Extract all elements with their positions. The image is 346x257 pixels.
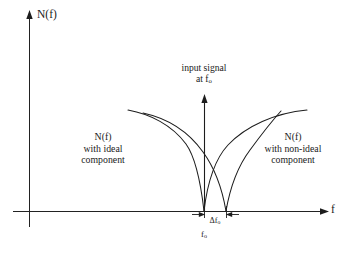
x-axis-arrow-icon: [320, 208, 329, 214]
delta-f-label-base: Δf: [210, 216, 218, 225]
f-zero-label: fo: [194, 229, 214, 240]
ideal-component-label-line2: with ideal: [52, 143, 154, 155]
input-signal-label-base: at f: [196, 73, 209, 84]
ideal-component-label: N(f) with ideal component: [52, 131, 154, 166]
y-axis-arrow-icon: [26, 10, 32, 19]
y-axis-label: N(f): [37, 8, 57, 22]
non-ideal-component-label-line3: component: [243, 154, 343, 166]
figure-canvas: [0, 0, 346, 257]
input-signal-label: input signal at fo: [163, 62, 245, 86]
curve-non-ideal-left-branch: [143, 113, 226, 211]
input-signal-arrow-icon: [201, 94, 207, 103]
f-zero-label-subscript: o: [204, 233, 207, 239]
non-ideal-component-label-line1: N(f): [243, 131, 343, 143]
x-axis-label: f: [331, 203, 335, 217]
non-ideal-component-label-line2: with non-ideal: [243, 143, 343, 155]
ideal-component-label-line1: N(f): [52, 131, 154, 143]
delta-f-label: Δfo: [203, 216, 227, 226]
non-ideal-component-label: N(f) with non-ideal component: [243, 131, 343, 166]
delta-f-label-subscript: o: [218, 219, 221, 225]
axes-group: [13, 10, 329, 227]
input-signal-label-line2: at fo: [163, 73, 245, 85]
ideal-component-label-line3: component: [52, 154, 154, 166]
noise-spectrum-figure: N(f) f input signal at fo N(f) with idea…: [0, 0, 346, 257]
input-signal-label-subscript: o: [209, 78, 212, 85]
input-signal-label-line1: input signal: [163, 62, 245, 73]
